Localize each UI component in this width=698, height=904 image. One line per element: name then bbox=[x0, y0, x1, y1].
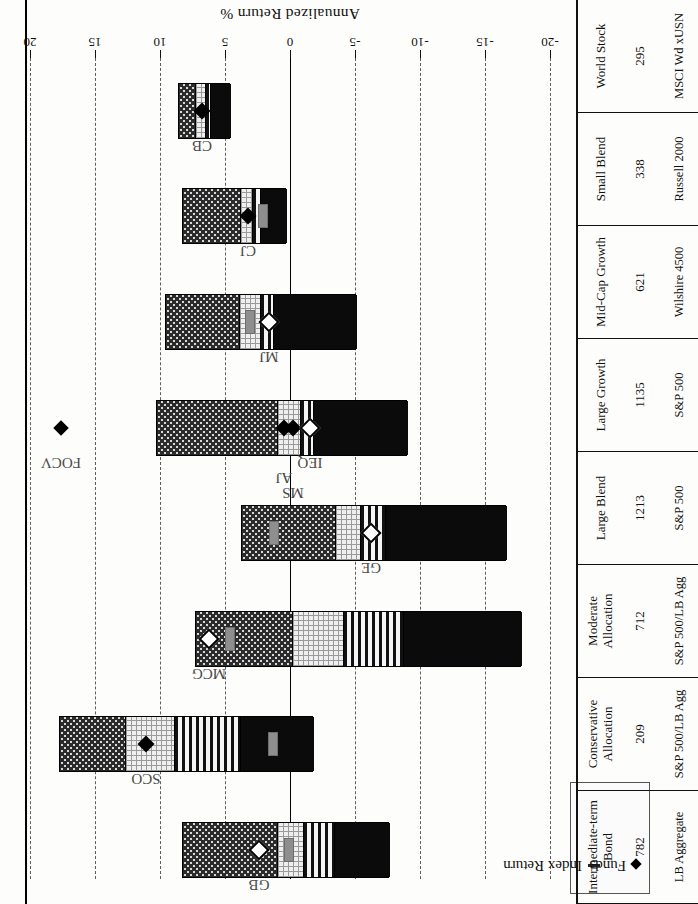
table-cell-category: Mid-Cap Growth bbox=[592, 230, 607, 335]
quartile-segment-q4 bbox=[385, 506, 507, 560]
fund-label-IEQ: IEQ bbox=[297, 453, 322, 470]
fund-label-MCG: MCG bbox=[192, 664, 226, 681]
table-cell-category: Conservative Allocation bbox=[585, 682, 615, 787]
table-cell-benchmark: S&P 500 bbox=[671, 343, 686, 448]
table-cell-benchmark: LB Aggregate bbox=[671, 795, 686, 900]
gridline--15 bbox=[485, 58, 486, 879]
table-cell-count: 1135 bbox=[632, 343, 648, 448]
table-row: Small Blend338Russell 2000 bbox=[578, 113, 698, 226]
quartile-segment-q2 bbox=[292, 612, 343, 666]
gridline--10 bbox=[420, 58, 421, 879]
legend-index-label: Index Return bbox=[503, 858, 582, 874]
table-row: Intermediate-term Bond782LB Aggregate bbox=[578, 791, 698, 904]
fund-label-GB: GB bbox=[248, 876, 269, 893]
table-cell-benchmark: S&P 500/LB Agg bbox=[671, 682, 686, 787]
axis-tick--10 bbox=[420, 50, 421, 58]
table-row: Moderate Allocation712S&P 500/LB Agg bbox=[578, 565, 698, 678]
table-cell-count: 782 bbox=[632, 795, 648, 900]
axis-tick--20 bbox=[550, 50, 551, 58]
axis-tick-label: -20 bbox=[541, 34, 558, 50]
axis-tick--5 bbox=[355, 50, 356, 58]
quartile-segment-q1 bbox=[242, 506, 336, 560]
axis-tick-15 bbox=[95, 50, 96, 58]
index-return-marker-7 bbox=[284, 838, 294, 862]
axis-tick-label: -15 bbox=[476, 34, 493, 50]
axis-tick--15 bbox=[485, 50, 486, 58]
fund-label-SCO: SCO bbox=[131, 770, 160, 787]
quartile-box-5 bbox=[195, 611, 521, 667]
table-cell-count: 1213 bbox=[632, 456, 648, 561]
quartile-segment-q4 bbox=[313, 401, 408, 455]
table-cell-category: Moderate Allocation bbox=[585, 569, 615, 674]
quartile-segment-q1 bbox=[166, 295, 239, 349]
table-cell-count: 621 bbox=[632, 230, 648, 335]
axis-tick-5 bbox=[225, 50, 226, 58]
axis-tick-20 bbox=[30, 50, 31, 58]
fund-label-CJ: CJ bbox=[240, 242, 256, 259]
table-cell-benchmark: Russell 2000 bbox=[671, 117, 686, 222]
gridline--5 bbox=[355, 58, 356, 879]
table-cell-count: 338 bbox=[632, 117, 648, 222]
fund-label-GE: GE bbox=[361, 559, 381, 576]
quartile-segment-q3 bbox=[343, 612, 403, 666]
quartile-segment-q1 bbox=[183, 189, 240, 243]
axis-title: Annualized Return % bbox=[220, 5, 360, 23]
table-cell-category: Intermediate-term Bond bbox=[585, 795, 615, 900]
category-table: Intermediate-term Bond782LB AggregateCon… bbox=[576, 0, 696, 904]
table-cell-category: Large Growth bbox=[592, 343, 607, 448]
gridline-20 bbox=[30, 58, 31, 879]
axis-tick-label: 5 bbox=[222, 34, 229, 50]
axis-tick-label: -10 bbox=[411, 34, 428, 50]
quartile-segment-q4 bbox=[403, 612, 523, 666]
quartile-segment-q1 bbox=[157, 401, 277, 455]
table-cell-benchmark: Wilshire 4500 bbox=[671, 230, 686, 335]
quartile-segment-q4 bbox=[210, 84, 231, 138]
index-return-marker-1 bbox=[258, 204, 268, 228]
axis-tick-label: -5 bbox=[350, 34, 361, 50]
fund-label-MS: MS bbox=[282, 483, 304, 500]
quartile-segment-q1 bbox=[60, 717, 125, 771]
table-cell-count: 209 bbox=[632, 682, 648, 787]
table-row: World Stock295MSCI Wd xUSN bbox=[578, 0, 698, 113]
plot-frame-top bbox=[25, 0, 27, 904]
table-row: Large Growth1135S&P 500 bbox=[578, 339, 698, 452]
table-cell-category: Large Blend bbox=[592, 456, 607, 561]
axis-tick-0 bbox=[290, 50, 291, 58]
axis-tick-label: 10 bbox=[154, 34, 167, 50]
axis-tick-label: 15 bbox=[89, 34, 102, 50]
index-return-marker-2 bbox=[245, 310, 255, 334]
axis-tick-10 bbox=[160, 50, 161, 58]
table-row: Large Blend1213S&P 500 bbox=[578, 452, 698, 565]
axis-tick-label: 0 bbox=[287, 34, 294, 50]
table-cell-benchmark: S&P 500 bbox=[671, 456, 686, 561]
gridline--20 bbox=[550, 58, 551, 879]
table-row: Mid-Cap Growth621Wilshire 4500 bbox=[578, 226, 698, 339]
quartile-segment-q2 bbox=[335, 506, 360, 560]
index-return-marker-5 bbox=[225, 627, 235, 651]
quartile-box-1 bbox=[182, 188, 286, 244]
table-cell-count: 712 bbox=[632, 569, 648, 674]
fund-label-FOCV: FOCV bbox=[41, 453, 81, 470]
quartile-segment-q4 bbox=[334, 823, 390, 877]
quartile-segment-q3 bbox=[303, 823, 334, 877]
table-cell-benchmark: MSCI Wd xUSN bbox=[671, 4, 686, 109]
fund-label-CB: CB bbox=[192, 136, 212, 153]
table-cell-category: Small Blend bbox=[592, 117, 607, 222]
table-cell-count: 295 bbox=[632, 4, 648, 109]
table-cell-category: World Stock bbox=[592, 4, 607, 109]
table-cell-benchmark: S&P 500/LB Agg bbox=[671, 569, 686, 674]
quartile-segment-q3 bbox=[174, 717, 240, 771]
table-row: Conservative Allocation209S&P 500/LB Agg bbox=[578, 678, 698, 791]
index-return-marker-4 bbox=[269, 521, 279, 545]
index-return-marker-6 bbox=[268, 732, 278, 756]
quartile-segment-q4 bbox=[273, 295, 358, 349]
fund-label-MJ: MJ bbox=[260, 348, 279, 365]
fund-marker-FOCV bbox=[53, 420, 69, 436]
axis-tick-label: 20 bbox=[24, 34, 37, 50]
